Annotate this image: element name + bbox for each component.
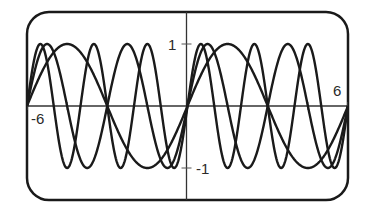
y-tick-label-bottom: -1 — [196, 160, 209, 177]
x-tick-label-right: 6 — [333, 82, 341, 99]
graph-window: -6 6 1 -1 — [0, 0, 371, 211]
y-tick-label-top: 1 — [168, 36, 176, 53]
x-tick-label-left: -6 — [31, 110, 44, 127]
